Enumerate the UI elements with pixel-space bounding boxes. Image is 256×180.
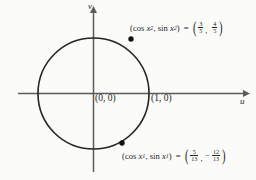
point-label-point1: ( cos x1 , sin x1 ) = ( 5 13 , − 12 13 ) [122,149,227,163]
point2-y-denominator: 5 [212,27,217,34]
point1-cos-text: cos [125,152,136,161]
point2-pair-close-paren: ) [220,22,224,34]
point2-coordinate-pair: ( 3 5 , 4 5 ) [192,21,225,35]
point1-y-fraction: 12 13 [212,149,220,163]
point1-sin-text: sin [150,152,160,161]
origin-label: (0, 0) [95,94,116,104]
point1-y-sign: − [205,152,210,160]
point2-x-fraction: 3 5 [198,21,203,35]
point2-x-denominator: 5 [198,27,203,34]
point-marker-point2 [128,36,133,41]
point1-y-denominator: 13 [212,155,220,162]
point1-x-fraction: 5 13 [190,149,198,163]
point1-x-denominator: 13 [190,155,198,162]
point1-coordinate-pair: ( 5 13 , − 12 13 ) [184,149,227,163]
point1-close-paren: ) [169,152,172,161]
point1-equals: = [176,152,181,161]
point2-pair-open-paren: ( [193,22,197,34]
point2-y-fraction: 4 5 [212,21,217,35]
v-axis-label: v [88,2,92,11]
u-axis-label: u [240,97,245,106]
point2-close-paren: ) [177,24,180,33]
unit-circle-figure: v u (0, 0) (1, 0) ( cos x2 , sin x2 ) = … [0,0,256,180]
point-label-point2: ( cos x2 , sin x2 ) = ( 3 5 , 4 5 ) [130,21,224,35]
point1-pair-close-paren: ) [222,150,226,162]
point2-sin-text: sin [158,24,168,33]
unit-point-label: (1, 0) [151,94,172,104]
point-marker-point1 [119,140,124,145]
point2-cos-text: cos [133,24,144,33]
point1-pair-open-paren: ( [185,150,189,162]
point2-pair-comma: , [205,27,207,35]
point1-pair-comma: , [200,155,202,163]
point2-equals: = [184,24,189,33]
